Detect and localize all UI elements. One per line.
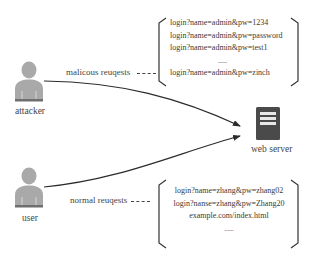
person-icon [14, 167, 44, 209]
malicious-left-bracket [159, 18, 166, 86]
request-item: login?nanse=zhang&pw=Zhang20 [166, 198, 292, 211]
server-label: web server [251, 144, 292, 154]
request-item: login?name=admin&pw=test1 [170, 42, 283, 55]
malicious-dash-connector [137, 73, 156, 74]
user-avatar [14, 167, 44, 207]
ellipsis: ...... [166, 223, 292, 236]
request-item: login?name=admin&pw=1234 [170, 17, 283, 30]
request-item: login?name=zhang&pw=zhang02 [166, 185, 292, 198]
normal-right-bracket [291, 180, 298, 248]
malicious-right-bracket [291, 18, 298, 86]
ellipsis: ...... [170, 55, 283, 68]
user-label: user [5, 213, 55, 223]
user-arrow [44, 136, 240, 187]
person-icon [14, 61, 44, 103]
normal-dash-connector [131, 201, 150, 202]
request-item: login?name=admin&pw=zinch [170, 67, 283, 80]
request-item: example.com/index.html [166, 210, 292, 223]
malicious-requests-list: login?name=admin&pw=1234 login?name=admi… [170, 17, 283, 80]
server-icon [256, 107, 280, 140]
malicious-requests-label: malicous reuqests [66, 67, 130, 77]
normal-requests-list: login?name=zhang&pw=zhang02 login?nanse=… [166, 185, 292, 235]
attacker-label: attacker [5, 106, 55, 116]
attacker-avatar [14, 61, 44, 101]
normal-requests-label: normal reuqests [70, 195, 127, 205]
attacker-arrow [44, 81, 240, 126]
normal-left-bracket [159, 180, 166, 248]
request-item: login?name=admin&pw=password [170, 30, 283, 43]
